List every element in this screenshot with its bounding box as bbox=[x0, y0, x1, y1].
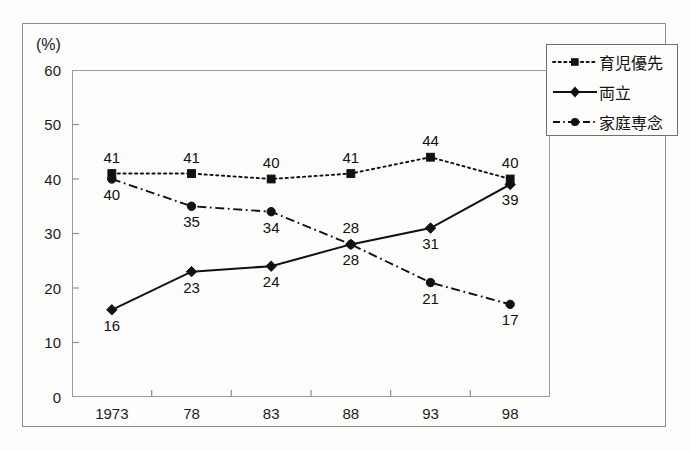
legend-item-ryoritsu[interactable]: 両立 bbox=[547, 77, 679, 107]
legend-sample-solid-diamond bbox=[551, 81, 599, 103]
chart-page: (%) 010203040506019737883889398414140414… bbox=[0, 0, 690, 451]
legend-label: 両立 bbox=[599, 80, 631, 104]
legend-sample-dashdot-circle bbox=[551, 111, 599, 133]
plot-area bbox=[72, 70, 550, 397]
legend-sample-dotted-square bbox=[551, 51, 599, 73]
legend-label: 育児優先 bbox=[599, 50, 663, 74]
legend-label: 家庭専念 bbox=[599, 110, 663, 134]
legend-item-katei-sennen[interactable]: 家庭専念 bbox=[547, 107, 679, 137]
legend-item-ikuji-yusen[interactable]: 育児優先 bbox=[547, 47, 679, 77]
y-axis-unit-label: (%) bbox=[36, 36, 61, 54]
legend-box: 育児優先 両立 家庭専念 bbox=[546, 44, 678, 136]
